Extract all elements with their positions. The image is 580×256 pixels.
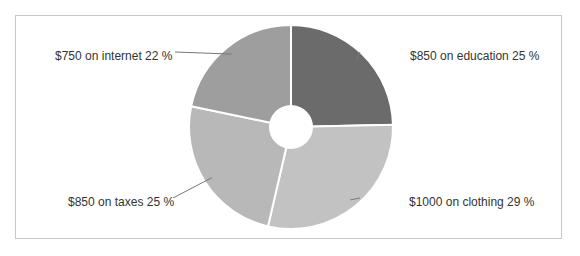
label-internet: $750 on internet 22 % [55, 49, 172, 63]
label-education: $850 on education 25 % [410, 49, 539, 63]
leader-line-taxes [173, 178, 212, 198]
label-clothing: $1000 on clothing 29 % [409, 195, 534, 209]
donut-hole [269, 105, 313, 149]
donut-chart [0, 0, 580, 256]
label-taxes: $850 on taxes 25 % [68, 195, 174, 209]
